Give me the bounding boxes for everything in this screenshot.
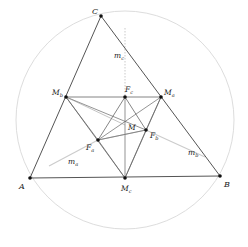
orthic-triangle [98, 97, 146, 140]
label-mc: Mc [120, 184, 132, 194]
label-fc: Fc [124, 85, 133, 95]
label-fa: Fa [85, 143, 94, 153]
point-mb [64, 95, 68, 99]
label-m: M [127, 123, 136, 132]
point-b [218, 174, 222, 178]
label-c: C [92, 7, 98, 16]
geometry-diagram: A B C Ma Mb Mc Fa Fb Fc M ma mb mc [0, 0, 248, 247]
point-a [28, 176, 32, 180]
point-fb [144, 128, 148, 132]
label-ma: Ma [163, 88, 175, 98]
point-fa [96, 138, 100, 142]
point-mc [123, 176, 127, 180]
label-b: B [223, 180, 230, 189]
label-fb: Fb [149, 131, 158, 141]
label-median-ma: ma [68, 157, 78, 167]
medial-triangle [66, 97, 161, 178]
label-median-mc: mc [114, 51, 124, 61]
line-fa-mc [98, 140, 125, 178]
line-fb-mc [125, 130, 146, 178]
point-c [99, 14, 103, 18]
point-ma [159, 95, 163, 99]
point-fc [123, 95, 127, 99]
label-a: A [18, 182, 25, 191]
label-median-mb: mb [188, 148, 198, 158]
label-mb: Mb [51, 88, 63, 98]
